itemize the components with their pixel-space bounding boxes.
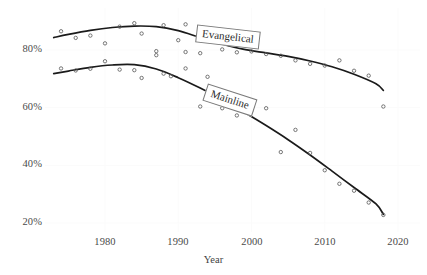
data-point bbox=[133, 21, 136, 24]
x-axis-tick-1990: 1990 bbox=[158, 236, 198, 247]
data-point bbox=[89, 34, 92, 37]
data-point bbox=[294, 128, 297, 131]
data-point bbox=[155, 53, 158, 56]
data-point bbox=[294, 59, 297, 62]
data-point bbox=[352, 189, 355, 192]
data-point bbox=[338, 182, 341, 185]
data-point bbox=[74, 36, 77, 39]
trend-lines bbox=[54, 26, 384, 214]
data-point bbox=[279, 150, 282, 153]
y-axis-tick-40: 40% bbox=[8, 158, 42, 169]
x-axis-tick-2020: 2020 bbox=[378, 236, 418, 247]
data-point bbox=[221, 48, 224, 51]
data-point bbox=[367, 201, 370, 204]
data-point bbox=[184, 67, 187, 70]
chart-container: 80% 60% 40% 20% 1980 1990 2000 2010 2020… bbox=[0, 0, 427, 275]
y-axis-tick-60: 60% bbox=[8, 101, 42, 112]
data-point-markers bbox=[59, 21, 385, 216]
data-point bbox=[59, 67, 62, 70]
data-point bbox=[264, 107, 267, 110]
data-point bbox=[199, 51, 202, 54]
data-point bbox=[308, 62, 311, 65]
data-point bbox=[367, 74, 370, 77]
data-point bbox=[133, 68, 136, 71]
data-point bbox=[59, 30, 62, 33]
data-point bbox=[184, 50, 187, 53]
data-point bbox=[338, 59, 341, 62]
data-point bbox=[140, 32, 143, 35]
x-axis-tick-1980: 1980 bbox=[85, 236, 125, 247]
data-point bbox=[140, 76, 143, 79]
y-axis-tick-80: 80% bbox=[8, 43, 42, 54]
y-axis-tick-20: 20% bbox=[8, 216, 42, 227]
data-point bbox=[162, 24, 165, 27]
data-point bbox=[235, 51, 238, 54]
x-axis-tick-2010: 2010 bbox=[305, 236, 345, 247]
data-point bbox=[235, 114, 238, 117]
data-point bbox=[118, 68, 121, 71]
data-point bbox=[352, 69, 355, 72]
data-point bbox=[206, 75, 209, 78]
x-axis-tick-2000: 2000 bbox=[232, 236, 272, 247]
x-axis-title: Year bbox=[0, 254, 427, 265]
data-point bbox=[184, 23, 187, 26]
